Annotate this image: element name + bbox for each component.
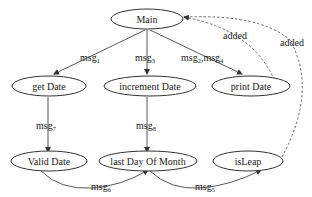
edge-label-added-printdate: added [223,30,247,41]
svg-text:isLeap: isLeap [235,156,262,167]
edge-label-msg5: msg5 [195,181,215,193]
edge-main-getdate [54,30,145,74]
svg-text:Valid Date: Valid Date [28,156,71,167]
edge-label-msg8: msg8 [136,120,156,132]
svg-text:last Day Of Month: last Day Of Month [110,156,185,167]
node-valid-date[interactable]: Valid Date [11,151,87,171]
svg-text:get Date: get Date [32,81,66,92]
node-print-date[interactable]: print Date [212,76,290,96]
svg-text:print Date: print Date [231,81,272,92]
svg-text:Main: Main [136,14,157,25]
edge-label-added-isleap: added [280,37,304,48]
node-last-day-of-month[interactable]: last Day Of Month [99,151,197,171]
edge-label-msg6: msg6 [91,181,112,193]
edge-label-msg2-msg4: msg2,msg4 [181,52,224,64]
node-main[interactable]: Main [111,9,183,29]
node-is-leap[interactable]: isLeap [213,151,283,171]
node-increment-date[interactable]: increment Date [104,76,196,96]
svg-text:increment Date: increment Date [119,81,181,92]
call-graph-diagram: msg1 msg3 msg2,msg4 msg7 msg8 msg6 msg5 … [0,0,312,197]
edge-label-msg3: msg3 [135,52,155,64]
edge-printdate-main-dashed [184,17,276,84]
edge-label-msg7: msg7 [36,120,57,132]
edge-label-msg1: msg1 [80,52,100,64]
node-get-date[interactable]: get Date [12,76,86,96]
